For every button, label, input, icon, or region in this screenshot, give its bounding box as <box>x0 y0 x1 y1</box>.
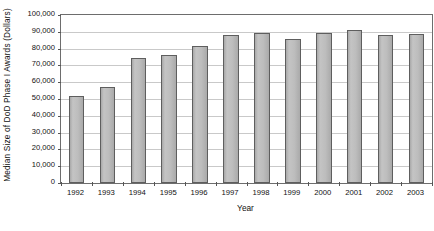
bar <box>192 46 207 183</box>
bar <box>131 58 146 183</box>
x-axis-tick-label: 1992 <box>60 188 91 198</box>
y-axis-tick-label: 10,000 <box>32 161 55 169</box>
x-axis-tick-label: 2003 <box>400 188 431 198</box>
bar <box>254 33 269 183</box>
x-axis-tick-mark <box>277 182 278 186</box>
x-axis-tick-label: 1993 <box>91 188 122 198</box>
x-axis-tick-label: 1996 <box>184 188 215 198</box>
x-axis-tick-label: 1995 <box>153 188 184 198</box>
bar <box>316 33 331 183</box>
x-axis-tick-mark <box>370 182 371 186</box>
x-axis-tick-label: 1994 <box>122 188 153 198</box>
y-axis-tick-label: 70,000 <box>32 60 55 68</box>
y-axis-title-label: Median Size of DoD Phase I Awards (Dolla… <box>2 8 12 182</box>
x-axis-title: Year <box>60 203 431 213</box>
x-axis-tick-label: 2000 <box>307 188 338 198</box>
y-axis-tick-label: 40,000 <box>32 111 55 119</box>
x-axis-tick-labels: 1992199319941995199619971998199920002001… <box>60 188 431 200</box>
x-axis-tick-label: 1998 <box>246 188 277 198</box>
x-axis-tick-mark <box>92 182 93 186</box>
x-axis-tick-mark <box>154 182 155 186</box>
y-axis-tick-label: 30,000 <box>32 128 55 136</box>
y-axis-tick-labels: 100,00090,00080,00070,00060,00050,00040,… <box>14 0 58 190</box>
bar <box>161 55 176 183</box>
y-axis-title: Median Size of DoD Phase I Awards (Dolla… <box>0 0 14 190</box>
y-axis-tick-label: 20,000 <box>32 144 55 152</box>
y-axis-tick-label: 90,000 <box>32 27 55 35</box>
x-axis-tick-mark <box>61 182 62 186</box>
x-axis-tick-mark <box>123 182 124 186</box>
bar <box>378 35 393 183</box>
x-axis-tick-label: 2002 <box>369 188 400 198</box>
bars-layer <box>61 15 432 183</box>
x-axis-tick-mark <box>247 182 248 186</box>
bar <box>223 35 238 183</box>
x-axis-tick-marks <box>60 182 433 187</box>
bar <box>100 87 115 183</box>
x-axis-tick-label: 1997 <box>215 188 246 198</box>
y-axis-tick-label: 80,000 <box>32 44 55 52</box>
x-axis-tick-mark <box>216 182 217 186</box>
x-axis-tick-mark <box>308 182 309 186</box>
y-axis-tick-label: 0 <box>51 178 55 186</box>
y-axis-tick-label: 50,000 <box>32 94 55 102</box>
x-axis-tick-label: 1999 <box>276 188 307 198</box>
y-axis-tick-label: 60,000 <box>32 77 55 85</box>
x-axis-tick-mark <box>401 182 402 186</box>
bar <box>409 34 424 183</box>
x-axis-tick-label: 2001 <box>338 188 369 198</box>
bar <box>347 30 362 183</box>
bar-chart-figure: Median Size of DoD Phase I Awards (Dolla… <box>0 0 434 231</box>
x-axis-tick-mark <box>432 182 433 186</box>
x-axis-tick-mark <box>339 182 340 186</box>
bar <box>285 39 300 183</box>
x-axis-tick-mark <box>185 182 186 186</box>
bar <box>69 96 84 183</box>
plot-area <box>60 14 433 184</box>
y-axis-tick-label: 100,000 <box>28 10 55 18</box>
